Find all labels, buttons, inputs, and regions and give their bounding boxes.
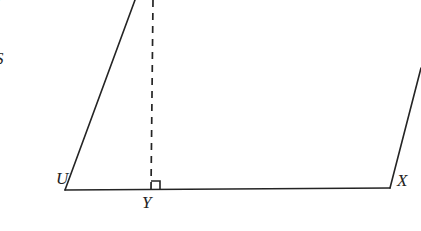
clipped-label-top-left: V (0, 0, 2, 8)
clipped-label-s: S (0, 50, 4, 67)
vertex-label-y: Y (142, 194, 151, 211)
vertex-label-x: X (397, 172, 407, 189)
figure-background (0, 0, 421, 231)
vertex-label-u: U (56, 170, 68, 187)
geometry-figure: V S U Y X (0, 0, 421, 231)
figure-canvas (0, 0, 421, 231)
